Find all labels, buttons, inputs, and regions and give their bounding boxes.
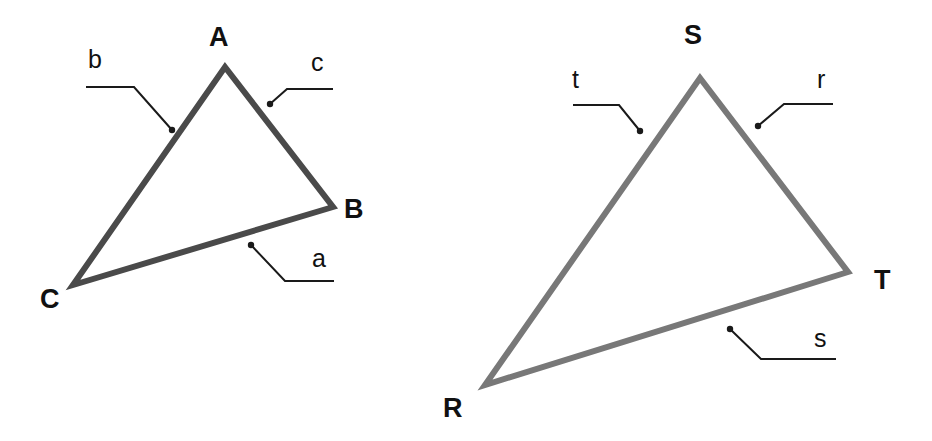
side-label-r: r [817, 65, 825, 93]
leader-dot-b [169, 127, 175, 133]
vertex-label-A: A [209, 22, 229, 52]
leader-dot-a [248, 242, 254, 248]
leader-line-r [758, 104, 833, 126]
side-label-t: t [572, 65, 579, 93]
vertex-label-S: S [684, 20, 702, 50]
leader-dot-s [727, 326, 733, 332]
similar-triangles-diagram: ABCabcSTRrst [0, 0, 932, 441]
leader-dot-c [267, 101, 273, 107]
geometry-figure: ABCabcSTRrst [0, 0, 932, 441]
triangle-abc: ABCabc [40, 22, 364, 314]
leader-line-b [86, 87, 172, 130]
leader-line-c [270, 89, 333, 104]
vertex-label-C: C [40, 284, 60, 314]
triangle-rst-outline [485, 78, 848, 385]
leader-dot-r [755, 123, 761, 129]
vertex-label-R: R [443, 393, 463, 423]
side-label-s: s [814, 324, 827, 352]
triangle-rst: STRrst [443, 20, 891, 423]
side-label-c: c [311, 48, 324, 76]
vertex-label-T: T [874, 265, 891, 295]
side-label-a: a [312, 244, 326, 272]
leader-dot-t [637, 128, 643, 134]
side-label-b: b [88, 45, 102, 73]
leader-line-t [573, 105, 640, 131]
triangle-abc-outline [73, 67, 333, 285]
vertex-label-B: B [344, 194, 364, 224]
